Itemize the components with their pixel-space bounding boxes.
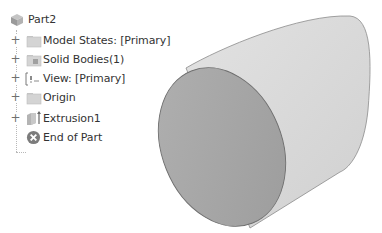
tree-item-view[interactable]: + View: [Primary] [0, 70, 150, 88]
tree-item-origin[interactable]: + Origin [0, 89, 100, 107]
expand-button[interactable]: + [10, 35, 21, 46]
view-icon [25, 72, 41, 86]
cylinder-model[interactable] [150, 0, 382, 233]
part-icon [9, 13, 25, 27]
expand-button[interactable]: + [10, 73, 21, 84]
tree-item-label: Extrusion1 [43, 112, 101, 125]
expand-button[interactable]: + [10, 113, 21, 124]
tree-item-solid-bodies[interactable]: + Solid Bodies(1) [0, 51, 150, 69]
tree-item-label: End of Part [43, 131, 102, 144]
graphics-viewport[interactable] [150, 0, 382, 233]
tree-connector-line [16, 152, 26, 153]
model-browser: Part2 + Model States: [Primary] + Solid … [0, 0, 160, 233]
tree-item-label: View: [Primary] [43, 72, 125, 85]
expand-button[interactable]: + [10, 92, 21, 103]
tree-item-extrusion1[interactable]: + Extrusion1 [0, 110, 110, 128]
tree-item-end-of-part[interactable]: End of Part [0, 128, 110, 146]
folder-icon [26, 91, 42, 105]
tree-item-model-states[interactable]: + Model States: [Primary] [0, 32, 150, 50]
solid-bodies-icon [26, 53, 42, 67]
tree-root-part[interactable]: Part2 [0, 11, 80, 29]
end-of-part-icon [26, 130, 41, 145]
tree-item-label: Part2 [28, 13, 56, 26]
folder-icon [26, 34, 42, 48]
tree-item-label: Solid Bodies(1) [43, 53, 124, 66]
expand-button[interactable]: + [10, 54, 21, 65]
extrusion-icon [26, 111, 42, 125]
tree-item-label: Origin [43, 91, 76, 104]
